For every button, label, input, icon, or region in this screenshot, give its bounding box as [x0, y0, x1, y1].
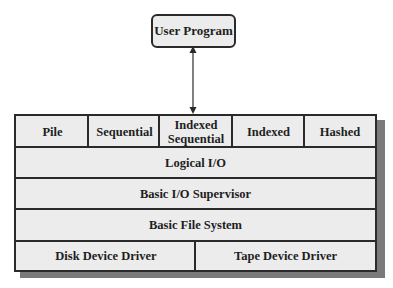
file-system-layer-stack: Pile Sequential Indexed Sequential Index…: [14, 114, 377, 272]
tape-device-driver-label: Tape Device Driver: [234, 249, 337, 263]
basic-file-system-label: Basic File System: [149, 218, 242, 233]
sequential-label: Sequential: [96, 125, 152, 139]
basic-file-system-layer: Basic File System: [16, 208, 375, 240]
disk-device-driver-label: Disk Device Driver: [55, 249, 156, 263]
basic-io-supervisor-layer: Basic I/O Supervisor: [16, 177, 375, 209]
pile-label: Pile: [42, 125, 62, 139]
cell-hashed: Hashed: [303, 116, 375, 148]
logical-io-layer: Logical I/O: [16, 146, 375, 178]
basic-io-supervisor-label: Basic I/O Supervisor: [140, 187, 251, 202]
cell-disk-device-driver: Disk Device Driver: [16, 242, 196, 270]
cell-indexed-sequential: Indexed Sequential: [158, 116, 232, 148]
indexed-sequential-label-line1: Indexed: [174, 118, 217, 132]
indexed-label: Indexed: [247, 125, 290, 139]
cell-sequential: Sequential: [87, 116, 160, 148]
cell-pile: Pile: [16, 116, 89, 148]
logical-io-label: Logical I/O: [165, 156, 226, 171]
cell-tape-device-driver: Tape Device Driver: [194, 242, 375, 270]
cell-indexed: Indexed: [231, 116, 304, 148]
indexed-sequential-label-line2: Sequential: [168, 132, 224, 146]
file-organization-layer: Pile Sequential Indexed Sequential Index…: [16, 116, 375, 148]
hashed-label: Hashed: [320, 125, 360, 139]
device-driver-layer: Disk Device Driver Tape Device Driver: [16, 240, 375, 270]
